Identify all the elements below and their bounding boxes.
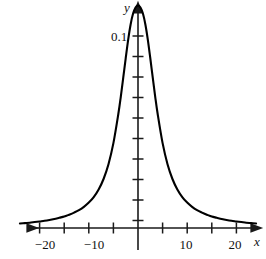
x-axis-label: x	[254, 235, 260, 248]
plot-svg	[0, 0, 266, 259]
y-axis-label: y	[124, 1, 130, 14]
x-tick-label-minus20: −20	[35, 238, 55, 251]
x-tick-label-10: 10	[180, 238, 193, 251]
x-tick-label-20: 20	[229, 238, 242, 251]
figure-canvas: y x 0.1 −20 −10 10 20	[0, 0, 266, 259]
x-tick-label-minus10: −10	[84, 238, 104, 251]
y-tick-label: 0.1	[111, 30, 127, 43]
